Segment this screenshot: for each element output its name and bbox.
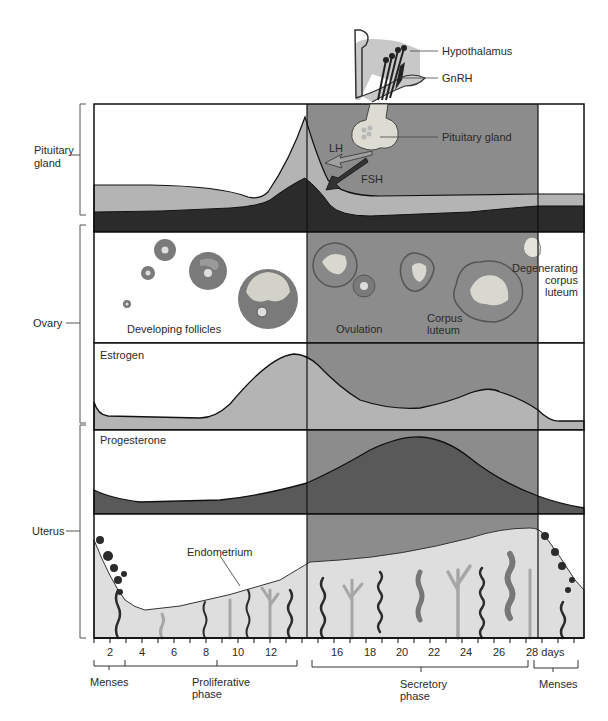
phase-menses-end: Menses [539, 678, 578, 690]
region-label-pituitary-line2: gland [34, 157, 61, 169]
tick-label: 20 [396, 646, 408, 658]
label-corpus-luteum-line2: luteum [427, 324, 460, 336]
tick-label: 16 [331, 646, 343, 658]
label-estrogen: Estrogen [100, 349, 144, 361]
phase-proliferative-line1: Proliferative [192, 676, 250, 688]
tick-label: 12 [265, 646, 277, 658]
tick-label-days: 28 days [526, 646, 565, 658]
label-corpus-luteum-line1: Corpus [427, 312, 463, 324]
tick-label: 26 [493, 646, 505, 658]
pituitary-panel [94, 104, 584, 232]
label-developing-follicles: Developing follicles [127, 323, 222, 335]
phase-brackets [94, 660, 578, 672]
label-gnrh: GnRH [442, 72, 473, 84]
uterus-panel [94, 514, 584, 638]
label-degenerating-line3: luteum [545, 286, 578, 298]
tick-label: 4 [139, 646, 145, 658]
region-brackets [66, 104, 86, 638]
label-progesterone: Progesterone [100, 434, 166, 446]
phase-menses-start: Menses [90, 676, 129, 688]
phase-secretory-line1: Secretory [400, 678, 448, 690]
label-hypothalamus: Hypothalamus [442, 45, 513, 57]
tick-label: 22 [428, 646, 440, 658]
day-axis: 2 4 6 8 10 12 16 18 20 22 24 26 28 days [94, 638, 584, 658]
menstrual-cycle-diagram: 2 4 6 8 10 12 16 18 20 22 24 26 28 days … [0, 0, 608, 721]
phase-proliferative-line2: phase [192, 688, 222, 700]
tick-label: 6 [171, 646, 177, 658]
label-degenerating-line1: Degenerating [512, 262, 578, 274]
label-fsh: FSH [361, 173, 383, 185]
label-lh: LH [329, 142, 343, 154]
label-endometrium: Endometrium [187, 546, 252, 558]
tick-label: 18 [364, 646, 376, 658]
label-pituitary-gland: Pituitary gland [442, 131, 512, 143]
region-label-ovary: Ovary [33, 317, 63, 329]
progesterone-panel [94, 430, 584, 514]
tick-label: 10 [232, 646, 244, 658]
tick-label: 8 [203, 646, 209, 658]
label-ovulation: Ovulation [336, 323, 382, 335]
region-label-uterus: Uterus [32, 525, 65, 537]
label-degenerating-line2: corpus [545, 274, 579, 286]
tick-label: 24 [460, 646, 472, 658]
estrogen-panel [94, 343, 584, 430]
tick-label: 2 [107, 646, 113, 658]
phase-secretory-line2: phase [400, 690, 430, 702]
region-label-pituitary: Pituitary [34, 144, 74, 156]
